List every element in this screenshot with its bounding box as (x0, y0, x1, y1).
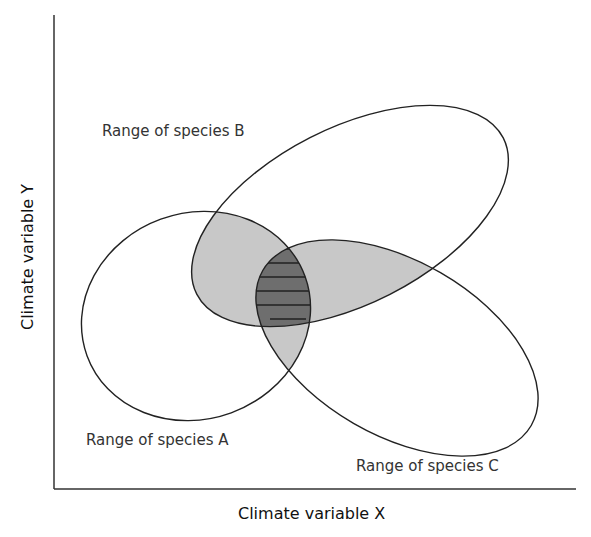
label-range-b: Range of species B (102, 122, 245, 140)
label-range-c: Range of species C (356, 457, 499, 475)
y-axis-label: Climate variable Y (18, 184, 37, 330)
overlap-A-B (157, 60, 543, 373)
x-axis-label: Climate variable X (238, 504, 385, 523)
label-range-a: Range of species A (86, 431, 229, 449)
climate-envelope-diagram: Range of species B Range of species A Ra… (0, 0, 591, 537)
